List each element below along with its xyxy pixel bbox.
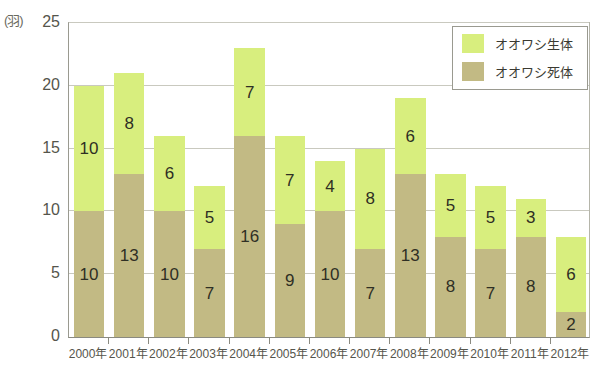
bar-value-dead: 7: [205, 285, 214, 302]
bar-value-live: 6: [165, 165, 174, 182]
bar-value-dead: 13: [120, 247, 139, 264]
bar-group-2009[interactable]: 58: [435, 174, 466, 337]
bar-segment-dead: 2: [556, 312, 587, 337]
bar-segment-live: 6: [556, 237, 587, 312]
bar-value-live: 5: [446, 197, 455, 214]
x-axis-label-2002: 2002年: [148, 344, 188, 361]
bar-value-live: 4: [325, 178, 334, 195]
bar-value-live: 5: [486, 209, 495, 226]
bar-group-2007[interactable]: 87: [355, 149, 386, 337]
bar-segment-live: 4: [315, 161, 346, 211]
bar-segment-live: 5: [435, 174, 466, 237]
bar-value-dead: 2: [566, 316, 575, 333]
bar-segment-live: 5: [475, 186, 506, 249]
bar-segment-dead: 10: [315, 211, 346, 337]
bar-group-2010[interactable]: 57: [475, 186, 506, 337]
legend-label-live: オオワシ生体: [495, 34, 573, 53]
bar-segment-live: 7: [275, 136, 306, 224]
x-axis-label-2012: 2012年: [550, 344, 590, 361]
y-axis-tick-0: 0: [16, 327, 60, 345]
bar-segment-dead: 7: [475, 249, 506, 337]
x-axis-tick: [229, 338, 230, 344]
chart-legend: オオワシ生体 オオワシ死体: [452, 26, 588, 90]
bar-value-dead: 10: [321, 266, 340, 283]
bar-segment-dead: 16: [234, 136, 265, 337]
bar-segment-live: 10: [74, 86, 105, 212]
y-axis-tick-15: 15: [16, 139, 60, 157]
bar-segment-live: 7: [234, 48, 265, 136]
chart-container: (羽) 0510152025 1010813610577167941087613…: [0, 0, 604, 365]
bar-group-2002[interactable]: 610: [154, 136, 185, 337]
bar-value-dead: 9: [285, 272, 294, 289]
bar-segment-dead: 8: [435, 237, 466, 337]
x-axis-tick: [510, 338, 511, 344]
x-axis-label-2000: 2000年: [68, 344, 108, 361]
bar-value-dead: 16: [240, 228, 259, 245]
bar-segment-dead: 10: [154, 211, 185, 337]
bar-value-dead: 10: [160, 266, 179, 283]
bar-segment-dead: 8: [516, 237, 547, 337]
bar-value-dead: 7: [486, 285, 495, 302]
bar-group-2004[interactable]: 716: [234, 48, 265, 337]
bar-value-live: 6: [406, 128, 415, 145]
x-axis-tick: [389, 338, 390, 344]
bar-value-live: 7: [285, 172, 294, 189]
bar-group-2001[interactable]: 813: [114, 73, 145, 337]
bar-value-live: 6: [566, 266, 575, 283]
bar-value-live: 3: [526, 209, 535, 226]
bar-segment-live: 8: [355, 149, 386, 249]
bar-value-live: 8: [365, 190, 374, 207]
bar-group-2000[interactable]: 1010: [74, 86, 105, 337]
bar-value-live: 10: [80, 140, 99, 157]
bar-segment-dead: 13: [114, 174, 145, 337]
x-axis-label-2003: 2003年: [188, 344, 228, 361]
x-axis-tick: [188, 338, 189, 344]
bar-group-2011[interactable]: 38: [516, 199, 547, 337]
x-axis-label-2009: 2009年: [429, 344, 469, 361]
bar-value-live: 8: [124, 115, 133, 132]
x-axis-label-2011: 2011年: [510, 344, 550, 361]
legend-item-dead[interactable]: オオワシ死体: [462, 62, 579, 81]
bar-group-2006[interactable]: 410: [315, 161, 346, 337]
bar-value-dead: 13: [401, 247, 420, 264]
legend-label-dead: オオワシ死体: [495, 62, 573, 81]
x-axis-tick: [550, 338, 551, 344]
x-axis-label-2001: 2001年: [108, 344, 148, 361]
bar-segment-dead: 7: [194, 249, 225, 337]
bar-group-2003[interactable]: 57: [194, 186, 225, 337]
x-axis-tick: [108, 338, 109, 344]
bar-value-live: 5: [205, 209, 214, 226]
x-axis-tick: [269, 338, 270, 344]
bar-value-live: 7: [245, 84, 254, 101]
y-axis-tick-10: 10: [16, 201, 60, 219]
x-axis-tick: [349, 338, 350, 344]
y-axis-unit-label: (羽): [4, 10, 23, 29]
x-axis-label-2010: 2010年: [470, 344, 510, 361]
x-axis-label-2006: 2006年: [309, 344, 349, 361]
bar-segment-live: 5: [194, 186, 225, 249]
bar-value-dead: 7: [365, 285, 374, 302]
x-axis-tick: [470, 338, 471, 344]
legend-item-live[interactable]: オオワシ生体: [462, 34, 579, 53]
x-axis-label-2004: 2004年: [229, 344, 269, 361]
y-axis-tick-5: 5: [16, 264, 60, 282]
x-axis-tick: [309, 338, 310, 344]
x-axis-label-2005: 2005年: [269, 344, 309, 361]
x-axis-tick: [148, 338, 149, 344]
legend-swatch-live: [462, 34, 484, 53]
bar-segment-live: 3: [516, 199, 547, 237]
bar-segment-dead: 7: [355, 249, 386, 337]
bar-group-2008[interactable]: 613: [395, 98, 426, 337]
bar-group-2005[interactable]: 79: [275, 136, 306, 337]
x-axis-label-2008: 2008年: [389, 344, 429, 361]
x-axis-label-2007: 2007年: [349, 344, 389, 361]
legend-swatch-dead: [462, 62, 484, 81]
x-axis-tick: [429, 338, 430, 344]
bar-group-2012[interactable]: 62: [556, 237, 587, 337]
y-axis-tick-20: 20: [16, 76, 60, 94]
bar-segment-live: 6: [395, 98, 426, 173]
bar-segment-dead: 10: [74, 211, 105, 337]
bar-segment-dead: 13: [395, 174, 426, 337]
bar-value-dead: 8: [446, 278, 455, 295]
bar-value-dead: 8: [526, 278, 535, 295]
